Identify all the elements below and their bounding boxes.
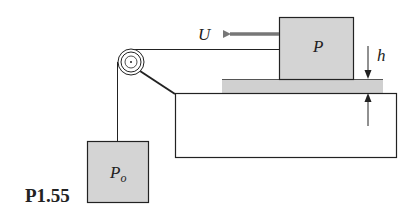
pulley-strut bbox=[140, 71, 175, 94]
gap-label: h bbox=[377, 46, 386, 65]
table bbox=[176, 94, 397, 158]
velocity-label: U bbox=[198, 25, 212, 44]
diagram-canvas: P U h Po P1.55 bbox=[0, 0, 415, 218]
pulley-icon bbox=[118, 49, 144, 75]
figure-label: P1.55 bbox=[25, 185, 70, 206]
oil-film bbox=[222, 79, 383, 93]
block-p-label: P bbox=[312, 37, 323, 56]
diagram-svg: P U h Po P1.55 bbox=[0, 0, 415, 218]
